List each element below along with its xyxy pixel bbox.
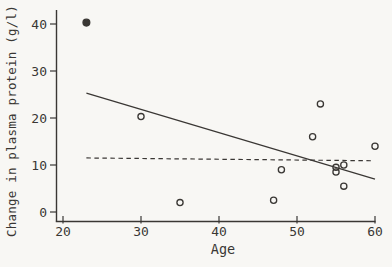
x-tick-label: 20: [55, 224, 71, 239]
x-tick-label: 50: [289, 224, 305, 239]
data-point-filled: [83, 19, 90, 26]
scatter-plot-figure: 2030405060010203040 Change in plasma pro…: [0, 0, 392, 267]
y-tick-label: 0: [39, 205, 47, 220]
data-point: [177, 200, 183, 206]
scatter-plot: 2030405060010203040: [0, 0, 392, 267]
reference-line-dashed: [86, 158, 373, 161]
data-point: [271, 197, 277, 203]
data-point: [341, 183, 347, 189]
y-tick-label: 40: [31, 17, 47, 32]
data-point: [341, 162, 347, 168]
x-tick-label: 40: [211, 224, 227, 239]
regression-line-solid: [86, 93, 375, 179]
data-point: [138, 113, 144, 119]
y-tick-label: 30: [31, 64, 47, 79]
data-point: [278, 167, 284, 173]
x-axis-label: Age: [211, 241, 235, 257]
data-point: [317, 101, 323, 107]
data-point: [310, 134, 316, 140]
y-tick-label: 10: [31, 158, 47, 173]
x-tick-label: 60: [367, 224, 383, 239]
x-tick-label: 30: [133, 224, 149, 239]
y-tick-label: 20: [31, 111, 47, 126]
data-point: [372, 143, 378, 149]
y-axis-label: Change in plasma protein (g/l): [4, 5, 19, 237]
